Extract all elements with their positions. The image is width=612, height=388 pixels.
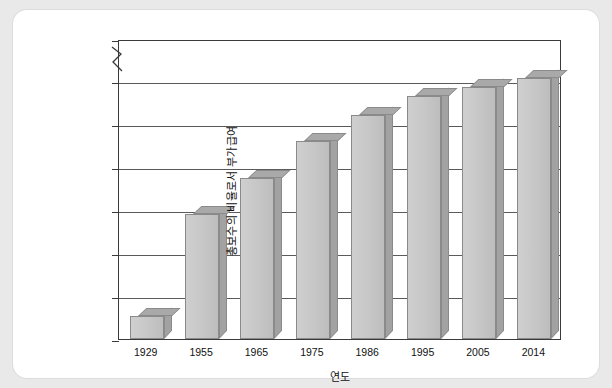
x-axis-tick-label: 1929 (116, 346, 176, 358)
bar-side-face (551, 69, 559, 339)
bar-top-face (470, 79, 513, 87)
bar-front-face (517, 78, 551, 339)
chart-card: 051015202530100 총보수의 비율로서 부가급여 192919551… (13, 10, 599, 378)
bar-side-face (441, 88, 449, 339)
x-axis-tick-label: 1975 (282, 346, 342, 358)
plot-area: 051015202530100 총보수의 비율로서 부가급여 (118, 40, 561, 340)
bar-side-face (496, 78, 504, 339)
bar (517, 78, 551, 339)
bar-front-face (407, 96, 441, 339)
x-axis-tick-label: 1986 (337, 346, 397, 358)
x-axis-tick-label: 2005 (448, 346, 508, 358)
x-axis-tick-label: 1965 (226, 346, 286, 358)
x-axis-title: 연도 (118, 368, 561, 384)
x-axis-tick-label: 2014 (503, 346, 563, 358)
bar-front-face (462, 87, 496, 339)
bar-side-face (385, 107, 393, 339)
y-axis-tick (112, 341, 119, 342)
bar (407, 96, 441, 339)
x-axis-tick-label: 1955 (171, 346, 231, 358)
bar-top-face (525, 70, 568, 78)
bar (462, 87, 496, 339)
x-axis-tick-label: 1995 (393, 346, 453, 358)
y-axis-title: 총보수의 비율로서 부가급여 (81, 41, 381, 341)
bar-top-face (415, 88, 458, 96)
